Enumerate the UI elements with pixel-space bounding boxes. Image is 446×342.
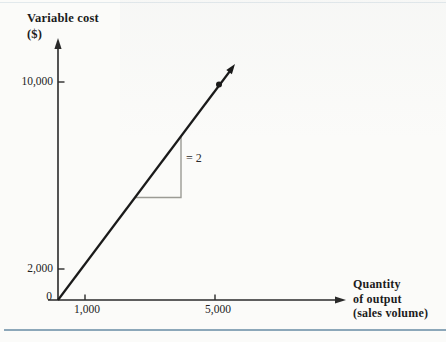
slope-annotation: = 2 xyxy=(186,152,202,164)
variable-cost-line xyxy=(58,71,230,300)
bottom-page-rule xyxy=(4,329,446,331)
origin-label: 0 xyxy=(14,291,52,303)
x-axis-title-line3: (sales volume) xyxy=(353,306,428,321)
y-tick-label-2000: 2,000 xyxy=(9,263,53,275)
y-axis-title: Variable cost ($) xyxy=(27,10,99,42)
y-axis-title-line1: Variable cost xyxy=(27,10,99,26)
textbook-figure-page: Variable cost ($) 10,000 2,000 0 1,000 5… xyxy=(0,0,446,342)
x-axis-arrowhead-icon xyxy=(335,296,346,303)
x-axis-title-line2: of output xyxy=(353,292,428,307)
data-point-marker xyxy=(216,82,222,88)
y-axis-title-line2: ($) xyxy=(27,26,99,42)
y-tick-label-10000: 10,000 xyxy=(9,76,53,88)
x-axis-title-line1: Quantity xyxy=(353,277,428,292)
x-axis-title: Quantity of output (sales volume) xyxy=(353,277,428,321)
x-tick-label-1000: 1,000 xyxy=(57,304,117,316)
x-tick-label-5000: 5,000 xyxy=(188,304,248,316)
